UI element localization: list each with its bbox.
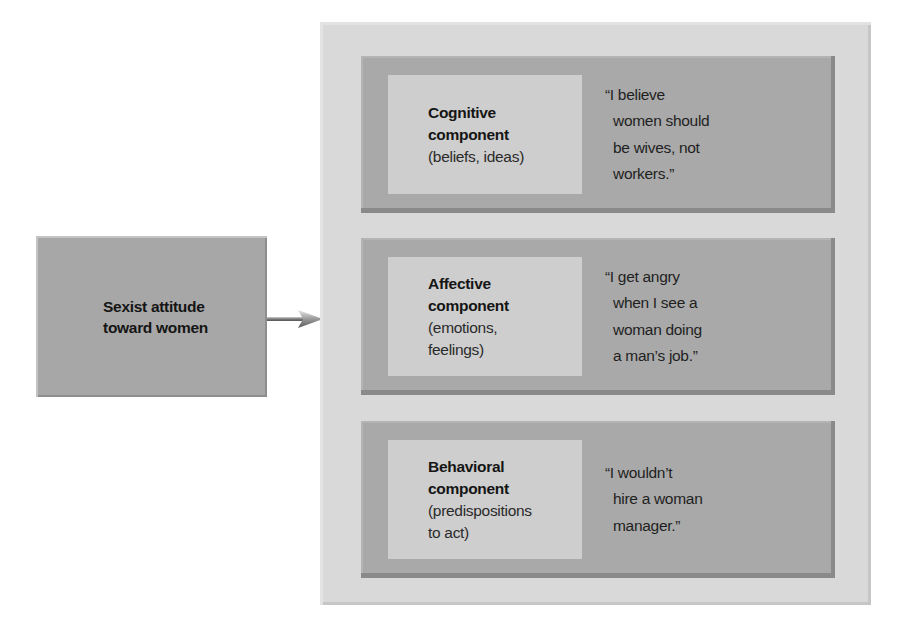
sexist-attitude-box: Sexist attitude toward women [36,236,267,397]
cognitive-component-card: Cognitive component (beliefs, ideas) “I … [361,56,835,213]
quote-line: women should [605,108,709,135]
component-title: component [428,478,532,500]
cognitive-label-box: Cognitive component (beliefs, ideas) [388,75,582,194]
component-quote: “I believe women should be wives, not wo… [605,56,709,213]
source-label-line-1: Sexist attitude [103,296,208,317]
behavioral-component-card: Behavioral component (predispositions to… [361,421,835,578]
component-description: (beliefs, ideas) [428,146,524,168]
quote-line: be wives, not [605,135,709,162]
component-title: component [428,124,524,146]
component-description: (predispositions [428,500,532,522]
component-title: Affective [428,273,509,295]
quote-line: “I get angry [605,264,702,291]
component-description: (emotions, [428,317,509,339]
component-title: Behavioral [428,456,532,478]
component-quote: “I wouldn’t hire a woman manager.” [605,421,702,578]
attitude-components-panel: Cognitive component (beliefs, ideas) “I … [320,22,871,605]
behavioral-label-box: Behavioral component (predispositions to… [388,440,582,559]
quote-line: “I wouldn’t [605,460,702,487]
source-label: Sexist attitude toward women [103,296,208,338]
quote-line: when I see a [605,290,702,317]
quote-line: woman doing [605,317,702,344]
component-quote: “I get angry when I see a woman doing a … [605,238,702,395]
quote-line: manager.” [605,513,702,540]
component-description: to act) [428,522,532,544]
quote-line: a man’s job.” [605,343,702,370]
arrow-right-icon [267,309,325,329]
quote-line: hire a woman [605,486,702,513]
component-title: Cognitive [428,102,524,124]
component-description: feelings) [428,339,509,361]
source-label-line-2: toward women [103,317,208,338]
component-title: component [428,295,509,317]
quote-line: “I believe [605,82,709,109]
affective-label-box: Affective component (emotions, feelings) [388,257,582,376]
affective-component-card: Affective component (emotions, feelings)… [361,238,835,395]
quote-line: workers.” [605,161,709,188]
